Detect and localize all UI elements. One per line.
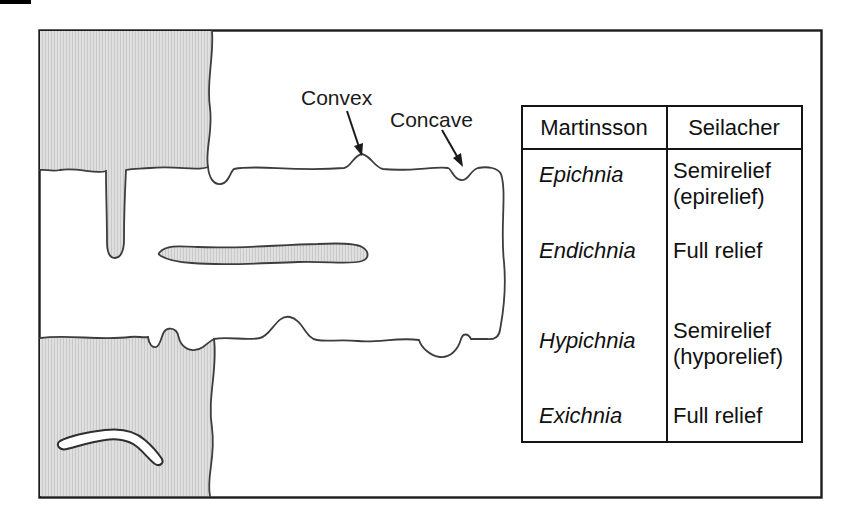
convex-arrow-icon (347, 111, 363, 156)
relief-line-1: Full relief (673, 403, 762, 429)
table-row-endichnia-relief: Full relief (673, 238, 762, 264)
relief-line-2: (hyporelief) (673, 344, 783, 370)
scan-artifact (0, 0, 31, 4)
lower-bed (40, 329, 215, 496)
table-row-epichnia-term: Epichnia (539, 162, 623, 188)
header-martinsson: Martinsson (523, 107, 665, 148)
endichnia-burrow (159, 243, 368, 264)
header-seilacher: Seilacher (667, 107, 801, 148)
table-column-divider (666, 107, 668, 441)
terminology-table: Martinsson Seilacher Epichnia Semirelief… (521, 105, 803, 443)
table-row-endichnia-term: Endichnia (539, 238, 636, 264)
upper-bed (40, 31, 212, 258)
concave-arrow-icon (442, 130, 463, 167)
table-header-row: Martinsson Seilacher (523, 107, 801, 150)
relief-line-1: Semirelief (673, 158, 771, 184)
table-row-exichnia-relief: Full relief (673, 403, 762, 429)
table-row-hypichnia-term: Hypichnia (539, 328, 636, 354)
relief-line-1: Full relief (673, 238, 762, 264)
convex-label: Convex (301, 86, 372, 110)
relief-line-1: Semirelief (673, 318, 783, 344)
table-row-exichnia-term: Exichnia (539, 403, 622, 429)
table-row-epichnia-relief: Semirelief (epirelief) (673, 158, 771, 210)
relief-line-2: (epirelief) (673, 184, 771, 210)
table-row-hypichnia-relief: Semirelief (hyporelief) (673, 318, 783, 370)
concave-label: Concave (390, 108, 473, 132)
figure-page: Convex Concave Martinsson Seilacher Epic… (0, 0, 856, 521)
